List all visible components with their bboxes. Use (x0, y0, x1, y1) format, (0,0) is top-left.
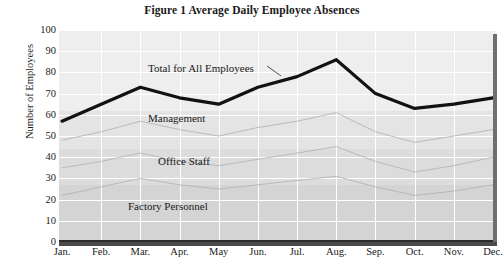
y-tick-label: 60 (26, 110, 56, 120)
y-tick-label: 40 (26, 152, 56, 162)
figure-container: Figure 1 Average Daily Employee Absences… (0, 0, 504, 272)
y-tick-label: 20 (26, 195, 56, 205)
series-label: Management (148, 112, 205, 124)
series-line (62, 113, 493, 143)
series-label: Factory Personnel (128, 200, 208, 212)
y-tick-label: 100 (26, 25, 56, 35)
y-tick-label: 30 (26, 173, 56, 183)
y-tick-label: 70 (26, 89, 56, 99)
series-lines (59, 30, 496, 242)
chart-title: Figure 1 Average Daily Employee Absences (0, 4, 504, 16)
y-tick-label: 10 (26, 216, 56, 226)
y-axis-tick-labels: 0102030405060708090100 (26, 0, 56, 272)
y-tick-label: 90 (26, 46, 56, 56)
series-line (62, 60, 493, 121)
series-label: Office Staff (158, 155, 210, 167)
total-label-leader-line (267, 66, 281, 76)
y-tick-label: 50 (26, 131, 56, 141)
plot-area: Total for All EmployeesManagementOffice … (59, 30, 496, 242)
series-line (62, 176, 493, 195)
x-tick-label: Dec. (470, 246, 504, 257)
x-axis-tick-labels: Jan.Feb.Mar.Apr.MayJun.Jul.Aug.Sep.Oct.N… (59, 246, 496, 268)
y-tick-label: 80 (26, 67, 56, 77)
series-label: Total for All Employees (148, 62, 254, 74)
series-line (62, 147, 493, 172)
plot-shadow-right (493, 34, 497, 246)
